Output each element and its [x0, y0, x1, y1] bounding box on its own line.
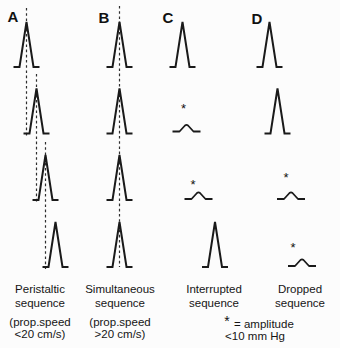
caption-simultaneous-line2: sequence	[95, 297, 145, 309]
caption-dropped-line2: sequence	[275, 297, 325, 309]
panel-interrupted: C * * Interrupted sequence	[163, 9, 242, 309]
footnote-amplitude-legend: * = amplitude <10 mm Hg	[224, 313, 294, 342]
manometry-sequence-figure: A Peristaltic sequence (prop.speed <20 c…	[0, 0, 340, 348]
pressure-wave-a-row3	[33, 155, 59, 200]
note-peristaltic-line2: <20 cm/s)	[15, 328, 66, 340]
caption-interrupted-line2: sequence	[189, 297, 239, 309]
panel-letter-d: D	[252, 10, 263, 27]
footnote-asterisk: *	[224, 313, 230, 329]
footnote-definition: = amplitude	[234, 318, 294, 330]
caption-peristaltic-line1: Peristaltic	[15, 283, 65, 295]
low-amplitude-asterisk-d-row3: *	[283, 170, 288, 185]
low-amplitude-wave-c-row2	[173, 125, 201, 132]
low-amplitude-wave-c-row3	[185, 192, 213, 199]
low-amplitude-asterisk-c-row2: *	[181, 101, 186, 116]
caption-simultaneous-line1: Simultaneous	[85, 283, 155, 295]
pressure-wave-c-row4	[202, 222, 228, 267]
panel-dropped: D * * Dropped sequence	[252, 10, 325, 309]
note-peristaltic-line1: (prop.speed	[9, 316, 70, 328]
low-amplitude-asterisk-c-row3: *	[190, 177, 195, 192]
pressure-wave-a-row4	[43, 222, 69, 267]
pressure-wave-c-row1	[170, 22, 196, 67]
panel-peristaltic: A Peristaltic sequence (prop.speed <20 c…	[8, 8, 71, 340]
caption-peristaltic-line2: sequence	[15, 297, 65, 309]
low-amplitude-wave-d-row3	[277, 192, 305, 199]
panel-letter-c: C	[163, 9, 174, 26]
caption-dropped-line1: Dropped	[278, 283, 322, 295]
panel-letter-a: A	[8, 8, 19, 25]
figure-canvas: A Peristaltic sequence (prop.speed <20 c…	[0, 0, 340, 348]
panel-simultaneous: B Simultaneous sequence (prop.speed >20 …	[85, 6, 155, 340]
pressure-wave-b-row4	[107, 222, 133, 267]
note-simultaneous-line2: >20 cm/s)	[95, 328, 146, 340]
low-amplitude-wave-d-row4	[288, 259, 316, 266]
caption-interrupted-line1: Interrupted	[186, 283, 242, 295]
panel-letter-b: B	[99, 9, 110, 26]
low-amplitude-asterisk-d-row4: *	[290, 240, 295, 255]
note-simultaneous-line1: (prop.speed	[89, 316, 150, 328]
pressure-wave-d-row1	[257, 22, 283, 67]
footnote-value: <10 mm Hg	[225, 330, 285, 342]
pressure-wave-d-row2	[265, 89, 291, 134]
